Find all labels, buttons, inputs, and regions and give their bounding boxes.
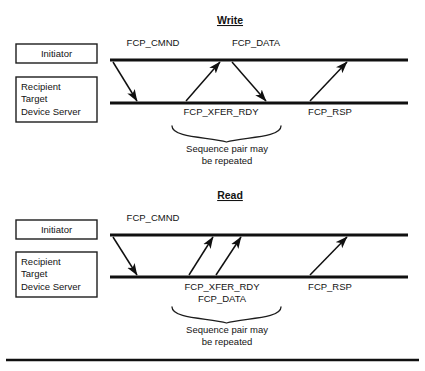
message-arrow-fcp-data (216, 237, 241, 275)
message-label-fcp-cmnd: FCP_CMND (127, 212, 180, 223)
repeat-note-line: Sequence pair may (186, 143, 268, 154)
repeat-note-line: Sequence pair may (186, 324, 268, 335)
actor-label-recipient: Device Server (21, 106, 81, 117)
actor-label-initiator: Initiator (41, 224, 72, 235)
repeat-brace (172, 307, 281, 323)
message-arrow-fcp-cmnd (113, 237, 137, 275)
message-arrow-fcp-rsp (310, 62, 347, 101)
repeat-brace (172, 126, 281, 142)
repeat-note-line: be repeated (202, 336, 253, 347)
actor-label-recipient: Target (21, 268, 48, 279)
message-label-fcp-rsp: FCP_RSP (308, 106, 352, 117)
section-read: ReadInitiatorRecipientTargetDevice Serve… (16, 189, 408, 347)
actor-label-recipient: Recipient (21, 81, 61, 92)
message-arrow-fcp-data (232, 62, 266, 101)
fcp-sequence-diagram: WriteInitiatorRecipientTargetDevice Serv… (0, 0, 425, 371)
actor-label-recipient: Recipient (21, 256, 61, 267)
message-arrow-fcp-rsp (310, 237, 347, 275)
actor-label-recipient: Target (21, 93, 48, 104)
actor-label-recipient: Device Server (21, 281, 81, 292)
repeat-note-line: be repeated (202, 155, 253, 166)
diagram-canvas: WriteInitiatorRecipientTargetDevice Serv… (0, 0, 425, 371)
section-title-write: Write (217, 14, 243, 26)
section-write: WriteInitiatorRecipientTargetDevice Serv… (16, 14, 408, 166)
message-arrow-fcp-xfer-rdy (189, 237, 213, 275)
message-label-fcp-data: FCP_DATA (232, 37, 281, 48)
message-label-fcp-xfer-rdy: FCP_XFER_RDY (184, 106, 260, 117)
actor-label-initiator: Initiator (41, 48, 72, 59)
message-label-fcp-data: FCP_DATA (198, 293, 247, 304)
section-title-read: Read (217, 189, 243, 201)
message-label-fcp-xfer-rdy: FCP_XFER_RDY (185, 281, 261, 292)
message-arrow-fcp-xfer-rdy (186, 62, 220, 101)
message-label-fcp-cmnd: FCP_CMND (127, 37, 180, 48)
message-label-fcp-rsp: FCP_RSP (308, 281, 352, 292)
message-arrow-fcp-cmnd (113, 62, 137, 101)
